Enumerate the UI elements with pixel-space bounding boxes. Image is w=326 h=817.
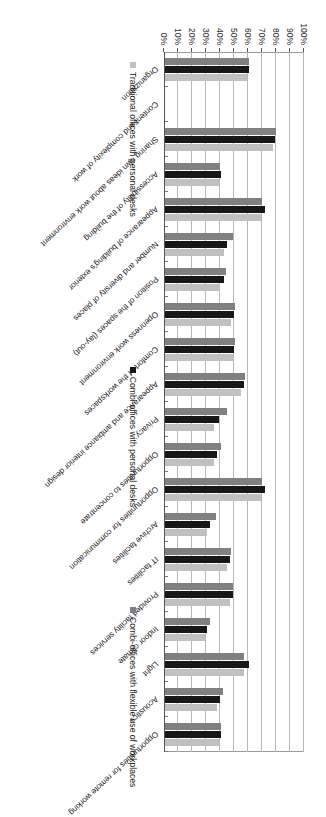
category-label: Opportunities for remote working — [67, 730, 160, 817]
bar-group — [164, 262, 304, 297]
bar-2 — [164, 284, 220, 291]
bar-2 — [164, 249, 224, 256]
y-axis-tick-label: 50% — [229, 28, 239, 45]
bar-group — [164, 542, 304, 577]
bar-1 — [164, 696, 220, 703]
bar-group — [164, 297, 304, 332]
bar-group — [164, 332, 304, 367]
bar-1 — [164, 136, 275, 143]
bar-group — [164, 402, 304, 437]
category-label: Privacy — [134, 415, 160, 440]
bar-0 — [164, 653, 244, 660]
y-axis-tick-label: 100% — [299, 23, 309, 45]
bar-0 — [164, 58, 249, 65]
bar-0 — [164, 233, 233, 240]
bar-groups — [164, 52, 304, 752]
bar-0 — [164, 373, 245, 380]
legend-item[interactable]: Combi-offices with flexible use of workp… — [128, 607, 138, 787]
bar-1 — [164, 381, 244, 388]
bar-1 — [164, 66, 249, 73]
y-axis-tick-label: 0% — [159, 33, 169, 45]
bar-group — [164, 682, 304, 717]
category-label: Comfort of the workspaces — [83, 345, 160, 418]
bar-1 — [164, 661, 249, 668]
bar-1 — [164, 591, 233, 598]
bar-2 — [164, 459, 214, 466]
bar-2 — [164, 424, 214, 431]
bar-2 — [164, 599, 230, 606]
bar-1 — [164, 206, 265, 213]
bar-group — [164, 437, 304, 472]
legend-label: Traditional offices with personal desks — [128, 72, 138, 217]
y-axis-tick-label: 70% — [257, 28, 267, 45]
y-axis-tick-label: 60% — [243, 28, 253, 45]
bar-0 — [164, 443, 221, 450]
legend-label: Combi-offices with flexible use of workp… — [128, 617, 138, 787]
gray-swatch — [130, 607, 136, 613]
bar-1 — [164, 171, 221, 178]
y-axis-tick-label: 30% — [201, 28, 211, 45]
category-label: Organization — [120, 65, 160, 103]
bar-2 — [164, 319, 231, 326]
bar-0 — [164, 163, 220, 170]
bar-group — [164, 472, 304, 507]
bar-2 — [164, 494, 261, 501]
category-labels: OrganizationContent and complexity of wo… — [12, 52, 162, 752]
plot-area: 0%10%20%30%40%50%60%70%80%90%100% — [164, 52, 304, 752]
bar-group — [164, 367, 304, 402]
bar-group — [164, 507, 304, 542]
chart-legend: Traditional offices with personal desksC… — [128, 62, 138, 752]
bar-1 — [164, 311, 234, 318]
bar-2 — [164, 214, 261, 221]
bar-0 — [164, 303, 235, 310]
legend-label: Combi-offices with personal desks — [128, 377, 138, 507]
bar-0 — [164, 688, 223, 695]
bar-1 — [164, 521, 210, 528]
black-swatch — [130, 367, 136, 373]
bar-0 — [164, 478, 262, 485]
bar-1 — [164, 416, 219, 423]
legend-item[interactable]: Combi-offices with personal desks — [128, 367, 138, 507]
bar-0 — [164, 338, 235, 345]
bar-2 — [164, 529, 207, 536]
bar-group — [164, 227, 304, 262]
bar-1 — [164, 241, 227, 248]
bar-2 — [164, 669, 244, 676]
bar-group — [164, 87, 304, 122]
bar-2 — [164, 389, 241, 396]
bar-0 — [164, 513, 216, 520]
bar-1 — [164, 486, 265, 493]
bar-2 — [164, 144, 273, 151]
y-axis-tick-label: 80% — [271, 28, 281, 45]
bar-0 — [164, 128, 276, 135]
y-axis-tick-label: 90% — [285, 28, 295, 45]
y-axis-tick-label: 40% — [215, 28, 225, 45]
bar-group — [164, 577, 304, 612]
bar-2 — [164, 739, 219, 746]
bar-2 — [164, 564, 227, 571]
bar-group — [164, 122, 304, 157]
bar-0 — [164, 408, 227, 415]
bar-1 — [164, 556, 230, 563]
bar-0 — [164, 548, 231, 555]
bar-1 — [164, 731, 221, 738]
light-gray-swatch — [130, 62, 136, 68]
bar-0 — [164, 723, 221, 730]
bar-group — [164, 192, 304, 227]
bar-2 — [164, 704, 217, 711]
bar-0 — [164, 583, 233, 590]
category-label: Accessibility of the building — [82, 170, 160, 243]
bar-1 — [164, 276, 224, 283]
bar-0 — [164, 618, 210, 625]
bar-group — [164, 717, 304, 752]
y-axis-tick-label: 20% — [187, 28, 197, 45]
bar-2 — [164, 634, 205, 641]
bar-0 — [164, 198, 262, 205]
bar-1 — [164, 451, 217, 458]
legend-item[interactable]: Traditional offices with personal desks — [128, 62, 138, 217]
bar-2 — [164, 74, 247, 81]
bar-group — [164, 612, 304, 647]
bar-0 — [164, 268, 226, 275]
